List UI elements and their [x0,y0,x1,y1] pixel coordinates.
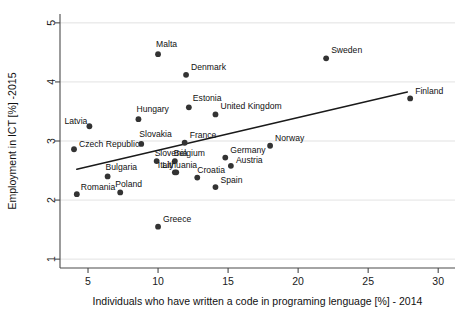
point-label-france: France [190,130,217,140]
point-label-belgium: Belgium [174,148,205,158]
scatter-chart: 1234551015202530Individuals who have wri… [0,0,462,327]
y-tick-label-4: 4 [45,79,57,85]
data-point-spain[interactable] [213,184,219,190]
data-point-finland[interactable] [407,96,413,102]
data-point-hungary[interactable] [136,116,142,122]
point-label-norway: Norway [275,133,305,143]
point-label-poland: Poland [115,179,142,189]
data-point-estonia[interactable] [186,104,192,110]
point-label-croatia: Croatia [197,165,225,175]
point-label-finland: Finland [415,86,443,96]
point-label-united-kingdom: United Kingdom [220,101,281,111]
point-label-spain: Spain [220,175,242,185]
data-point-norway[interactable] [267,143,273,149]
data-point-france[interactable] [182,140,188,146]
point-label-czech-republic: Czech Republic [79,139,140,149]
data-point-sweden[interactable] [323,55,329,61]
point-label-sweden: Sweden [331,45,362,55]
point-label-denmark: Denmark [191,62,227,72]
x-tick-label-5: 5 [85,275,91,287]
data-point-croatia[interactable] [194,175,200,181]
point-label-slovakia: Slovakia [139,129,172,139]
y-tick-label-1: 1 [45,256,57,262]
y-tick-label-3: 3 [45,138,57,144]
data-point-united-kingdom[interactable] [213,112,219,118]
data-point-denmark[interactable] [183,72,189,78]
y-tick-label-5: 5 [45,20,57,26]
point-label-bulgaria: Bulgaria [106,162,138,172]
y-axis-title: Employment in ICT [%] -2015 [6,72,18,209]
point-label-latvia: Latvia [64,116,87,126]
x-tick-label-30: 30 [432,275,444,287]
point-label-lithuania: Lithuania [162,160,197,170]
point-label-germany: Germany [230,145,266,155]
data-point-germany[interactable] [222,155,228,161]
point-label-austria: Austria [236,155,263,165]
point-label-romania: Romania [81,182,116,192]
x-tick-label-25: 25 [362,275,374,287]
data-point-slovakia[interactable] [138,141,144,147]
point-label-hungary: Hungary [136,104,169,114]
data-point-poland[interactable] [117,189,123,195]
point-label-estonia: Estonia [193,93,222,103]
x-tick-label-15: 15 [222,275,234,287]
data-point-austria[interactable] [228,163,234,169]
data-point-czech-republic[interactable] [71,146,77,152]
data-point-latvia[interactable] [87,123,93,129]
data-point-bulgaria[interactable] [105,174,111,180]
x-tick-label-20: 20 [292,275,304,287]
plot-svg: 1234551015202530Individuals who have wri… [0,0,462,327]
y-tick-label-2: 2 [45,197,57,203]
data-point-romania[interactable] [74,191,80,197]
point-label-greece: Greece [163,214,191,224]
point-label-malta: Malta [156,39,177,49]
data-point-malta[interactable] [155,51,161,57]
x-tick-label-10: 10 [152,275,164,287]
data-point-greece[interactable] [155,224,161,230]
x-axis-title: Individuals who have written a code in p… [93,295,423,307]
